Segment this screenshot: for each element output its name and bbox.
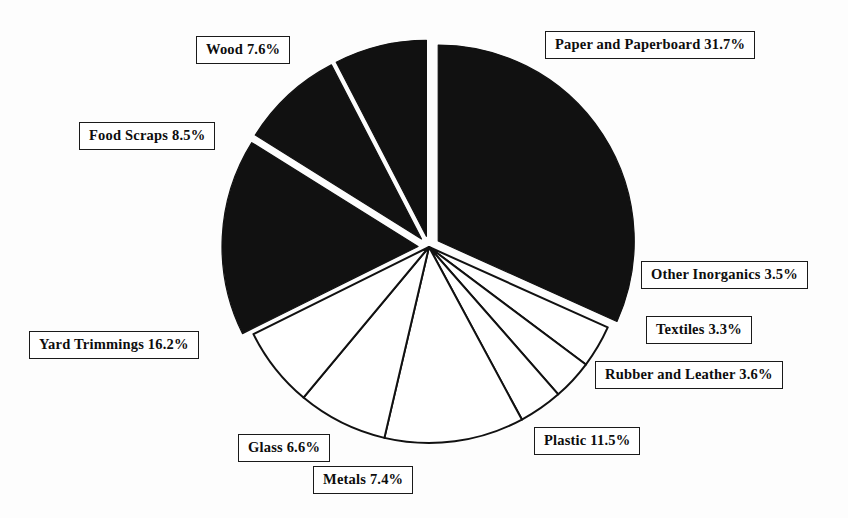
slice-label-food-scraps: Food Scraps 8.5% [79, 122, 215, 150]
slice-label-other-inorganics: Other Inorganics 3.5% [641, 261, 808, 289]
slice-label-paper-and-paperboard: Paper and Paperboard 31.7% [545, 31, 755, 59]
pie-slices-group [222, 40, 634, 443]
slice-label-plastic: Plastic 11.5% [534, 427, 640, 455]
slice-label-wood: Wood 7.6% [196, 36, 290, 64]
slice-label-yard-trimmings: Yard Trimmings 16.2% [29, 331, 199, 359]
slice-label-textiles: Textiles 3.3% [646, 316, 752, 344]
slice-label-metals: Metals 7.4% [313, 466, 413, 494]
pie-chart-canvas [0, 0, 848, 518]
slice-label-glass: Glass 6.6% [238, 434, 330, 462]
pie-chart-figure: Paper and Paperboard 31.7% Other Inorgan… [0, 0, 848, 518]
slice-label-rubber-and-leather: Rubber and Leather 3.6% [595, 361, 783, 389]
